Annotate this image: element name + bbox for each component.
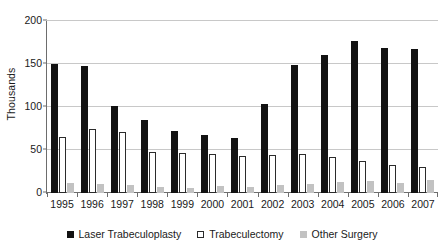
bar-set xyxy=(318,21,348,193)
bar xyxy=(277,185,284,193)
bar-group xyxy=(47,21,77,193)
x-axis-label: 1997 xyxy=(107,198,137,214)
bar xyxy=(321,55,328,193)
legend-label: Trabeculectomy xyxy=(209,228,283,240)
bar xyxy=(157,187,164,193)
legend-swatch-icon xyxy=(67,231,74,238)
bar-set xyxy=(107,21,137,193)
legend-label: Other Surgery xyxy=(312,228,378,240)
bar-set xyxy=(167,21,197,193)
bar-group xyxy=(378,21,408,193)
chart-legend: Laser TrabeculoplastyTrabeculectomyOther… xyxy=(0,228,444,240)
bar xyxy=(329,157,336,193)
x-axis-label: 2007 xyxy=(408,198,438,214)
bar xyxy=(359,161,366,193)
x-tick-mark xyxy=(47,193,48,197)
bar-set xyxy=(197,21,227,193)
bar-group xyxy=(258,21,288,193)
y-tick-label: 50 xyxy=(30,143,42,155)
bar xyxy=(81,66,88,193)
bar xyxy=(247,187,254,193)
bar xyxy=(59,137,66,193)
bar xyxy=(427,180,434,193)
x-axis-label: 1996 xyxy=(77,198,107,214)
bar-set xyxy=(258,21,288,193)
x-tick-mark xyxy=(258,193,259,197)
bar-set xyxy=(137,21,167,193)
y-tick-label: 100 xyxy=(24,100,42,112)
x-axis-label: 2000 xyxy=(197,198,227,214)
legend-item: Other Surgery xyxy=(300,228,378,240)
bar xyxy=(149,152,156,193)
x-tick-mark xyxy=(137,193,138,197)
bar-set xyxy=(378,21,408,193)
y-axis-title: Thousands xyxy=(0,0,22,218)
legend-swatch-icon xyxy=(300,231,307,238)
bar xyxy=(231,138,238,193)
x-tick-mark xyxy=(318,193,319,197)
bar-chart: Thousands 050100150200 19951996199719981… xyxy=(0,0,444,248)
x-axis-label: 2006 xyxy=(378,198,408,214)
bar xyxy=(381,48,388,193)
bar xyxy=(239,156,246,193)
bar-set xyxy=(288,21,318,193)
bar-group xyxy=(408,21,438,193)
bar-group xyxy=(77,21,107,193)
bar-set xyxy=(77,21,107,193)
bar xyxy=(51,64,58,193)
legend-swatch-icon xyxy=(197,231,204,238)
bar xyxy=(337,182,344,193)
bar xyxy=(141,120,148,193)
legend-label: Laser Trabeculoplasty xyxy=(79,228,182,240)
x-axis-label: 2001 xyxy=(227,198,257,214)
plot-area: 050100150200 xyxy=(47,21,438,193)
bar xyxy=(419,167,426,193)
bar-group xyxy=(197,21,227,193)
bar xyxy=(171,131,178,193)
legend-item: Laser Trabeculoplasty xyxy=(67,228,182,240)
bar xyxy=(397,183,404,193)
x-axis-label: 1998 xyxy=(137,198,167,214)
bar xyxy=(179,153,186,193)
bar xyxy=(111,106,118,193)
bar xyxy=(367,181,374,193)
bar xyxy=(261,104,268,193)
x-tick-mark xyxy=(378,193,379,197)
x-tick-mark xyxy=(197,193,198,197)
bar-group xyxy=(318,21,348,193)
bar xyxy=(209,154,216,193)
bar xyxy=(127,185,134,193)
x-tick-mark xyxy=(348,193,349,197)
x-tick-mark xyxy=(288,193,289,197)
bar xyxy=(291,65,298,193)
x-axis-label: 2002 xyxy=(258,198,288,214)
x-tick-mark xyxy=(408,193,409,197)
y-tick-label: 200 xyxy=(24,14,42,26)
x-axis-label: 2004 xyxy=(318,198,348,214)
x-tick-mark xyxy=(107,193,108,197)
bar xyxy=(89,129,96,194)
x-tick-mark xyxy=(437,193,438,197)
bar-set xyxy=(348,21,378,193)
bar xyxy=(217,186,224,193)
bar-groups xyxy=(47,21,438,193)
bar-group xyxy=(227,21,257,193)
y-tick-label: 150 xyxy=(24,57,42,69)
bar xyxy=(299,154,306,193)
y-tick-label: 0 xyxy=(36,186,42,198)
bar xyxy=(411,49,418,193)
x-tick-mark xyxy=(77,193,78,197)
x-axis-label: 2003 xyxy=(288,198,318,214)
bar-group xyxy=(137,21,167,193)
bar xyxy=(67,183,74,193)
bar xyxy=(187,188,194,193)
bar xyxy=(307,184,314,193)
bar-group xyxy=(348,21,378,193)
bar-group xyxy=(288,21,318,193)
bar xyxy=(201,135,208,193)
bar xyxy=(119,132,126,193)
x-tick-mark xyxy=(167,193,168,197)
bar-set xyxy=(47,21,77,193)
x-axis-label: 1999 xyxy=(167,198,197,214)
x-axis-label: 1995 xyxy=(47,198,77,214)
